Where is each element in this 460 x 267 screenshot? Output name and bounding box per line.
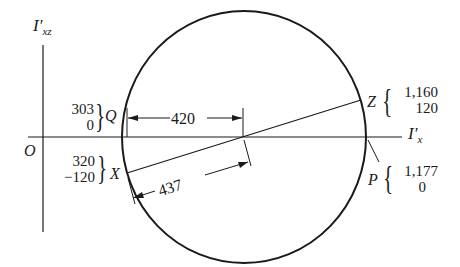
arrowhead-left-icon bbox=[128, 115, 138, 121]
z-brace-icon: { bbox=[382, 84, 392, 118]
origin-label: O bbox=[24, 143, 36, 158]
arrowhead-upper-right-icon bbox=[238, 162, 248, 168]
point-x-label: X bbox=[110, 166, 120, 181]
p-coordinates: 1,177 0 bbox=[396, 163, 438, 195]
vertical-axis-label: I′xz bbox=[33, 18, 52, 39]
q-brace-icon: } bbox=[95, 99, 105, 133]
vertical-axis-subscript: xz bbox=[42, 25, 51, 37]
x-brace-icon: } bbox=[97, 151, 107, 185]
vertical-axis-symbol: I′ bbox=[33, 16, 42, 35]
x-coord-y: −120 bbox=[52, 169, 95, 185]
p-coord-y: 0 bbox=[396, 179, 438, 195]
horizontal-axis-label: I′x bbox=[408, 126, 422, 147]
arrowhead-right-icon bbox=[232, 115, 242, 121]
point-q-label: Q bbox=[105, 108, 117, 123]
q-coordinates: 303 0 bbox=[62, 101, 94, 133]
z-coord-x: 1,160 bbox=[396, 84, 438, 100]
dim-420-label: 420 bbox=[171, 111, 195, 126]
x-coordinates: 320 −120 bbox=[52, 153, 95, 185]
p-brace-icon: { bbox=[383, 161, 393, 195]
horizontal-axis-subscript: x bbox=[417, 133, 422, 145]
z-coord-y: 120 bbox=[396, 100, 438, 116]
p-coord-x: 1,177 bbox=[396, 163, 438, 179]
horizontal-axis-symbol: I′ bbox=[408, 124, 417, 143]
p-leader-line bbox=[368, 140, 379, 162]
mohr-circle-diagram bbox=[0, 0, 460, 267]
x-coord-x: 320 bbox=[52, 153, 95, 169]
point-p-label: P bbox=[368, 172, 378, 187]
point-z-label: Z bbox=[367, 94, 376, 109]
q-coord-x: 303 bbox=[62, 101, 94, 117]
z-coordinates: 1,160 120 bbox=[396, 84, 438, 116]
q-coord-y: 0 bbox=[62, 117, 94, 133]
